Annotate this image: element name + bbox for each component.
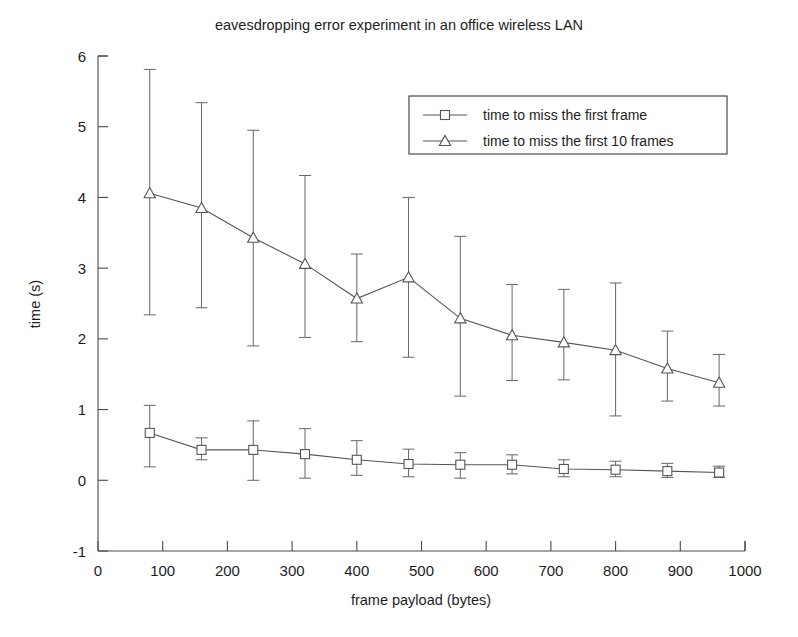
x-tick-label: 600 <box>474 562 499 579</box>
x-tick-label: 100 <box>150 562 175 579</box>
chart-title: eavesdropping error experiment in an off… <box>215 17 583 33</box>
line-chart-with-error-bars: eavesdropping error experiment in an off… <box>0 0 798 637</box>
square-marker <box>145 428 154 437</box>
x-axis-label: frame payload (bytes) <box>351 592 491 608</box>
square-marker <box>301 450 310 459</box>
square-marker <box>559 464 568 473</box>
x-tick-label: 500 <box>409 562 434 579</box>
legend-label: time to miss the first frame <box>483 107 647 123</box>
square-marker <box>456 460 465 469</box>
y-tick-label: 6 <box>78 48 86 65</box>
y-tick-label: 4 <box>78 189 86 206</box>
x-tick-label: 700 <box>538 562 563 579</box>
y-axis-label: time (s) <box>27 280 43 328</box>
x-tick-label: 900 <box>668 562 693 579</box>
square-marker <box>197 445 206 454</box>
y-tick-label: -1 <box>73 543 86 560</box>
square-marker <box>404 460 413 469</box>
x-tick-label: 0 <box>94 562 102 579</box>
square-marker <box>249 445 258 454</box>
x-tick-label: 800 <box>603 562 628 579</box>
legend-label: time to miss the first 10 frames <box>483 133 674 149</box>
x-tick-label: 200 <box>215 562 240 579</box>
x-tick-label: 400 <box>344 562 369 579</box>
square-marker <box>441 111 450 120</box>
y-tick-label: 2 <box>78 330 86 347</box>
square-marker <box>508 460 517 469</box>
square-marker <box>715 468 724 477</box>
chart-container: eavesdropping error experiment in an off… <box>0 0 798 637</box>
square-marker <box>663 467 672 476</box>
x-tick-label: 300 <box>280 562 305 579</box>
x-tick-label: 1000 <box>728 562 761 579</box>
square-marker <box>352 455 361 464</box>
square-marker <box>611 465 620 474</box>
y-tick-label: 1 <box>78 401 86 418</box>
chart-legend: time to miss the first frametime to miss… <box>409 96 727 154</box>
y-tick-label: 5 <box>78 118 86 135</box>
y-tick-label: 0 <box>78 472 86 489</box>
y-tick-label: 3 <box>78 260 86 277</box>
